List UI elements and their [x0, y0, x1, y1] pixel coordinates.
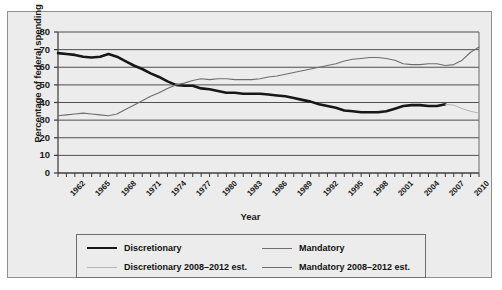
x-axis-title: Year: [8, 211, 493, 222]
legend-swatch-discretionary-est-icon: [87, 267, 117, 268]
legend-swatch-discretionary-icon: [87, 247, 117, 249]
y-tick-30: 30: [28, 114, 50, 125]
y-tick-20: 20: [28, 132, 50, 143]
y-tick-70: 70: [28, 44, 50, 55]
y-tick-10: 10: [28, 149, 50, 160]
y-tick-0: 0: [28, 167, 50, 178]
chart-frame: Percentage of federal spending Year 0102…: [7, 11, 492, 278]
legend-item-discretionary: Discretionary: [87, 243, 182, 253]
legend-item-mandatory-est: Mandatory 2008–2012 est.: [262, 262, 410, 272]
y-tick-60: 60: [28, 61, 50, 72]
legend-swatch-mandatory-est-icon: [262, 267, 292, 268]
y-tick-40: 40: [28, 97, 50, 108]
legend-item-discretionary-est: Discretionary 2008–2012 est.: [87, 262, 247, 272]
legend-label-discretionary: Discretionary: [124, 243, 182, 253]
legend-item-mandatory: Mandatory: [262, 243, 345, 253]
legend-swatch-mandatory-icon: [262, 248, 292, 249]
legend-label-mandatory-est: Mandatory 2008–2012 est.: [299, 262, 410, 272]
legend-label-discretionary-est: Discretionary 2008–2012 est.: [124, 262, 247, 272]
cropped-caption-strip: truncated text line (illegible, cropped …: [0, 0, 502, 7]
legend-label-mandatory: Mandatory: [299, 243, 345, 253]
y-tick-50: 50: [28, 79, 50, 90]
chart-legend: Discretionary Mandatory Discretionary 20…: [76, 234, 426, 278]
y-tick-80: 80: [28, 26, 50, 37]
